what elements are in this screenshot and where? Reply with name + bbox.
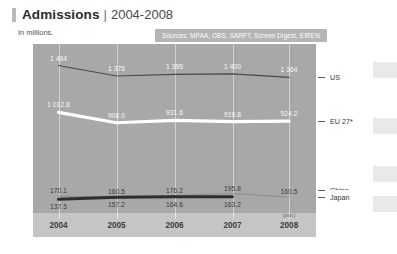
data-label-japan-2004: 137.5: [50, 203, 67, 210]
x-axis-label-2007: 2007: [223, 221, 241, 230]
legend-item-us[interactable]: US: [318, 70, 345, 85]
plot-inner: 1 6001 20080040001 4841 3781 3951 4001 3…: [33, 44, 316, 213]
legend-leader-line: [318, 77, 325, 78]
x-tick-mark-2006: [175, 213, 176, 219]
data-label-eu-27-2004: 1 012.8: [47, 101, 70, 108]
data-label-us-2004: 1 484: [50, 54, 67, 61]
x-tick-mark-2005: [117, 213, 118, 219]
data-label-us-2006: 1 395: [166, 63, 183, 70]
title-range: 2004-2008: [111, 7, 173, 22]
legend-leader-line: [318, 121, 325, 122]
edge-artifact-3: [373, 166, 397, 182]
title-accent-bar: [12, 8, 16, 22]
chart-plot-area: 1 6001 20080040001 4841 3781 3951 4001 3…: [33, 44, 316, 213]
data-label-china-2008: 160.5: [281, 188, 298, 195]
x-axis-label-2004: 2004: [49, 221, 67, 230]
x-axis-label-2008: 2008: [280, 221, 298, 230]
x-axis-provisional-note: (prov.): [283, 213, 296, 218]
data-label-china-2004: 170.1: [50, 187, 67, 194]
edge-artifact-2: [373, 118, 397, 134]
data-label-us-2008: 1 364: [281, 66, 298, 73]
data-label-eu-27-2008: 924.2: [281, 110, 298, 117]
x-axis-label-2006: 2006: [165, 221, 183, 230]
data-label-japan-2005: 157.2: [108, 201, 125, 208]
x-axis-band: 20042005200620072008(prov.): [33, 213, 316, 237]
legend-label: EU 27*: [325, 114, 358, 129]
data-label-china-2007: 195.8: [224, 184, 241, 191]
legend-item-japan[interactable]: Japan: [318, 190, 355, 205]
data-label-us-2007: 1 400: [224, 62, 241, 69]
x-axis-label-2005: 2005: [107, 221, 125, 230]
data-label-japan-2006: 164.6: [166, 200, 183, 207]
title-main: Admissions: [22, 7, 100, 22]
sources-note: Sources: MPAA, OBS, SARFT, Screen Digest…: [155, 29, 327, 42]
data-label-eu-27-2005: 908.0: [108, 111, 125, 118]
data-label-us-2005: 1 378: [108, 65, 125, 72]
title-separator: |: [104, 7, 107, 22]
edge-artifact-1: [373, 62, 397, 78]
legend-label: US: [325, 70, 345, 85]
data-label-eu-27-2006: 931.6: [166, 109, 183, 116]
x-tick-mark-2004: [59, 213, 60, 219]
x-tick-mark-2007: [233, 213, 234, 219]
data-label-japan-2007: 163.2: [224, 200, 241, 207]
series-line-japan: [58, 197, 232, 200]
data-label-china-2006: 176.2: [166, 186, 183, 193]
data-label-eu-27-2007: 919.8: [224, 110, 241, 117]
chart-page: Admissions | 2004-2008 In millions. Sour…: [0, 0, 397, 254]
data-label-china-2005: 160.5: [108, 188, 125, 195]
legend-leader-line: [318, 197, 325, 198]
edge-artifact-4: [373, 196, 397, 212]
page-title: Admissions | 2004-2008: [12, 7, 173, 22]
legend-item-eu-27[interactable]: EU 27*: [318, 114, 358, 129]
subtitle: In millions.: [18, 28, 53, 37]
legend-label: Japan: [325, 190, 355, 205]
